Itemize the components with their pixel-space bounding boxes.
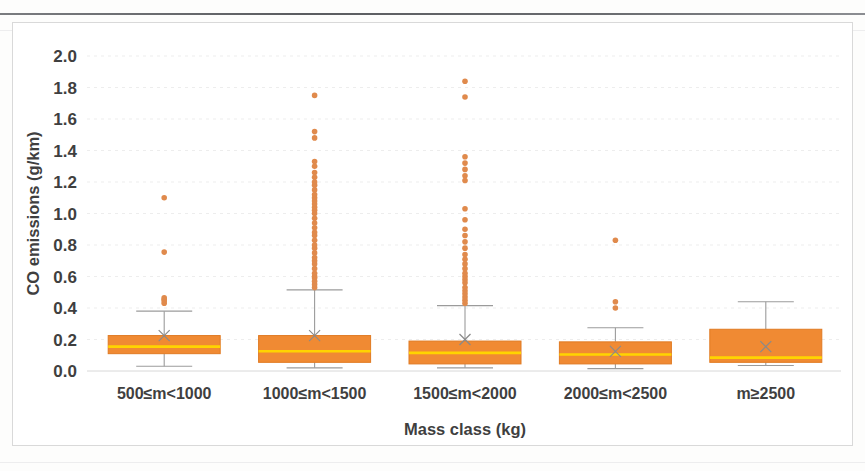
x-axis-title: Mass class (kg): [404, 420, 526, 438]
outlier-2-26: [462, 78, 468, 84]
scanned-page: 0.00.20.40.60.81.01.21.41.61.82.0500≤m<1…: [0, 0, 865, 471]
outlier-0-4: [161, 249, 167, 255]
chart-plot-area-frame: 0.00.20.40.60.81.01.21.41.61.82.0500≤m<1…: [12, 22, 853, 446]
outlier-2-17: [462, 226, 468, 232]
outlier-1-35: [312, 93, 318, 99]
y-axis-tick-1.4: 1.4: [53, 142, 77, 161]
y-axis-tick-1.6: 1.6: [53, 110, 77, 129]
outlier-1-33: [312, 135, 318, 141]
x-axis-category-1: 1000≤m<1500: [263, 385, 367, 402]
outlier-0-5: [161, 195, 167, 201]
y-axis-tick-0.6: 0.6: [53, 268, 77, 287]
outlier-2-22: [462, 167, 468, 173]
co-emissions-boxplot: 0.00.20.40.60.81.01.21.41.61.82.0500≤m<1…: [13, 23, 854, 447]
page-scan-artifact-bottom: [0, 462, 865, 463]
outlier-2-24: [462, 154, 468, 160]
y-axis-tick-2.0: 2.0: [53, 47, 77, 66]
box-3: [559, 342, 671, 364]
x-axis-category-0: 500≤m<1000: [117, 385, 212, 402]
outlier-2-25: [462, 94, 468, 100]
outlier-3-2: [613, 237, 619, 243]
x-axis-category-3: 2000≤m<2500: [564, 385, 668, 402]
outlier-2-23: [462, 160, 468, 166]
y-axis-tick-1.0: 1.0: [53, 205, 77, 224]
y-axis-tick-0.0: 0.0: [53, 362, 77, 381]
outlier-2-21: [462, 173, 468, 179]
page-top-rule: [0, 13, 865, 15]
outlier-2-13: [462, 252, 468, 258]
outlier-1-32: [312, 159, 318, 165]
outlier-2-14: [462, 245, 468, 251]
outlier-0-3: [161, 295, 167, 301]
y-axis-tick-1.2: 1.2: [53, 173, 77, 192]
y-axis-tick-0.8: 0.8: [53, 236, 77, 255]
x-axis-category-4: m≥2500: [736, 385, 795, 402]
outlier-1-34: [312, 129, 318, 135]
outlier-2-18: [462, 217, 468, 223]
x-axis-category-2: 1500≤m<2000: [413, 385, 517, 402]
outlier-3-0: [613, 305, 619, 311]
outlier-1-30: [312, 170, 318, 176]
y-axis-title: CO emissions (g/km): [24, 131, 42, 295]
box-1: [259, 336, 371, 363]
outlier-2-16: [462, 233, 468, 239]
y-axis-tick-0.4: 0.4: [53, 299, 77, 318]
y-axis-tick-0.2: 0.2: [53, 331, 77, 350]
outlier-3-1: [613, 299, 619, 305]
outlier-2-19: [462, 206, 468, 212]
box-0: [108, 336, 220, 354]
y-axis-tick-1.8: 1.8: [53, 79, 77, 98]
outlier-2-15: [462, 239, 468, 245]
